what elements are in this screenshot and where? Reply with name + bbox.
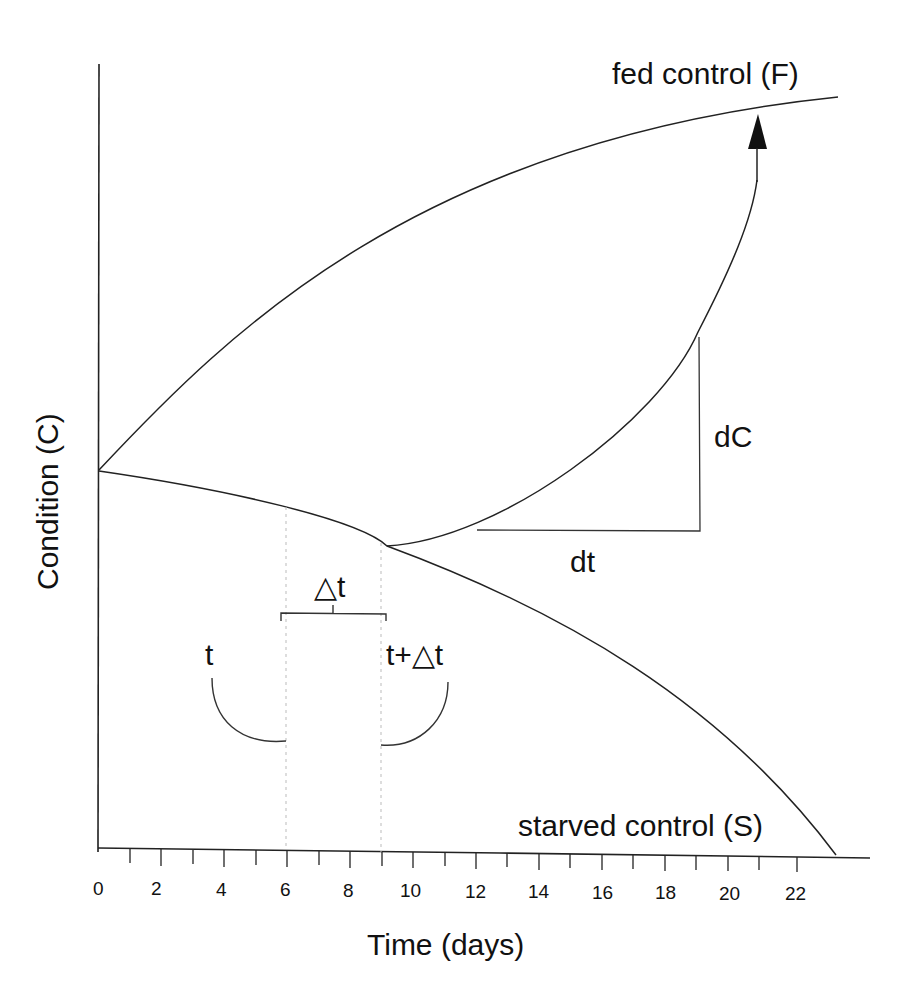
x-tick-20: 20	[719, 883, 740, 904]
y-axis-title: Condition (C)	[31, 413, 64, 590]
recovery-curve	[387, 180, 757, 546]
x-tick-22: 22	[785, 883, 806, 904]
x-tick-0: 0	[93, 878, 104, 899]
delta-t-bracket	[281, 605, 386, 621]
x-tick-16: 16	[592, 882, 613, 903]
t-connector-arc	[212, 678, 286, 741]
x-tick-2: 2	[151, 878, 162, 899]
x-tick-14: 14	[528, 881, 550, 902]
x-tick-18: 18	[655, 882, 676, 903]
x-tick-12: 12	[465, 881, 486, 902]
x-axis-title: Time (days)	[367, 928, 524, 961]
x-tick-6: 6	[280, 879, 291, 900]
x-tick-labels: 0 2 4 6 8 10 12 14 16 18 20 22	[93, 878, 806, 904]
t-label: t	[205, 638, 214, 671]
x-axis	[98, 848, 870, 858]
y-axis	[98, 64, 99, 852]
dt-label: dt	[570, 545, 596, 578]
delta-t-label: △t	[314, 570, 346, 603]
x-tick-4: 4	[216, 879, 227, 900]
slope-triangle	[477, 337, 700, 531]
arrowhead-icon	[748, 114, 767, 149]
dC-label: dC	[714, 420, 752, 453]
t-plus-dt-connector-arc	[381, 682, 448, 745]
x-tick-10: 10	[400, 880, 421, 901]
x-tick-8: 8	[343, 880, 354, 901]
t-plus-delta-t-label: t+△t	[386, 638, 444, 671]
starved-control-label: starved control (S)	[518, 809, 763, 842]
diagram-canvas: 0 2 4 6 8 10 12 14 16 18 20 22 Time (day…	[0, 0, 911, 1004]
fed-control-curve	[99, 97, 838, 470]
fed-control-label: fed control (F)	[612, 57, 799, 90]
